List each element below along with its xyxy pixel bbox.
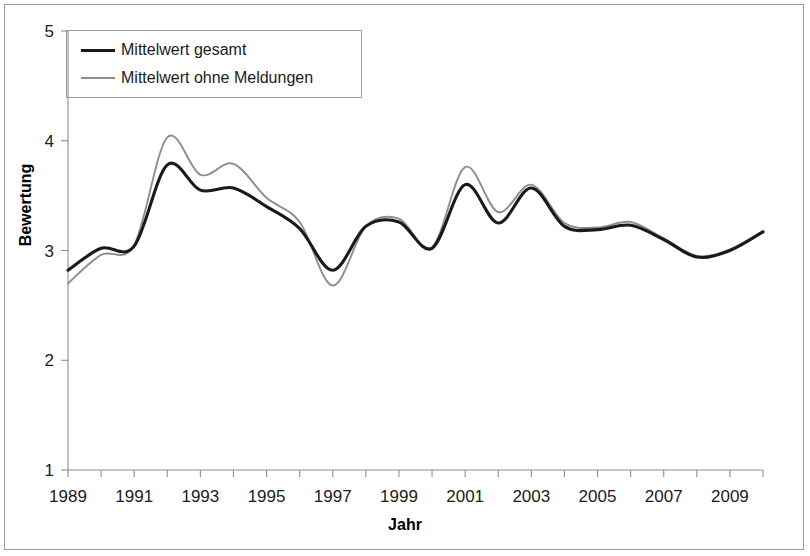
legend-line-swatch-icon [81, 77, 115, 79]
x-tick-label: 2005 [579, 487, 617, 506]
y-tick-label: 4 [45, 132, 54, 151]
y-tick-label: 1 [45, 461, 54, 480]
x-tick-label: 1989 [49, 487, 87, 506]
x-tick-label: 1995 [248, 487, 286, 506]
line-chart: 1234519891991199319951997199920012003200… [0, 0, 810, 556]
x-axis-title-text: Jahr [388, 516, 422, 533]
x-axis-title: Jahr [0, 516, 810, 534]
series-line-mittelwert-gesamt [68, 163, 763, 270]
x-tick-label: 2007 [645, 487, 683, 506]
series-line-mittelwert-ohne-meldungen [68, 136, 763, 286]
chart-legend: Mittelwert gesamt Mittelwert ohne Meldun… [66, 30, 362, 98]
x-tick-label: 2001 [446, 487, 484, 506]
x-tick-label: 1993 [181, 487, 219, 506]
legend-item-ohne-meldungen: Mittelwert ohne Meldungen [81, 64, 313, 92]
legend-item-total: Mittelwert gesamt [81, 36, 246, 64]
x-tick-label: 2003 [512, 487, 550, 506]
y-tick-label: 2 [45, 351, 54, 370]
y-axis-title: Bewertung [17, 145, 35, 265]
chart-page: 1234519891991199319951997199920012003200… [0, 0, 810, 556]
y-axis-title-text: Bewertung [17, 164, 34, 247]
x-tick-label: 1997 [314, 487, 352, 506]
x-tick-label: 1991 [115, 487, 153, 506]
x-tick-label: 1999 [380, 487, 418, 506]
x-tick-label: 2009 [711, 487, 749, 506]
data-series [68, 136, 763, 286]
y-tick-label: 3 [45, 242, 54, 261]
legend-item-label: Mittelwert ohne Meldungen [121, 69, 313, 87]
y-tick-label: 5 [45, 22, 54, 41]
legend-line-swatch-icon [81, 49, 115, 52]
legend-item-label: Mittelwert gesamt [121, 41, 246, 59]
